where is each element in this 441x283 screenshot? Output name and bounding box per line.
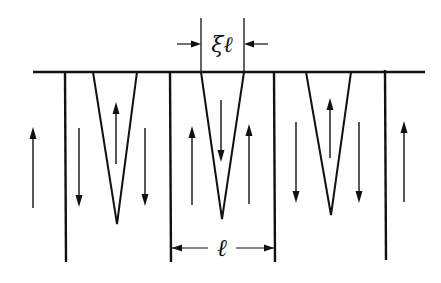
arrowhead-right-icon	[264, 245, 274, 252]
domain-diagram: ξℓ ℓ	[0, 0, 441, 283]
wedge-domain	[306, 72, 351, 215]
arrowhead-left-icon	[172, 245, 182, 252]
wedge-width-label: ξℓ	[211, 32, 233, 57]
arrowhead-up-icon	[401, 121, 408, 133]
wedge-domain	[93, 72, 137, 224]
arrowhead-up-icon	[327, 98, 334, 110]
wedge-domain	[201, 72, 244, 219]
arrowhead-up-icon	[113, 102, 120, 114]
arrowhead-down-icon	[356, 191, 363, 203]
domain-wall	[170, 72, 171, 262]
arrowhead-up-icon	[30, 127, 37, 139]
domain-wall	[65, 72, 66, 262]
arrowhead-right-icon	[191, 41, 201, 48]
arrowhead-down-icon	[142, 194, 149, 206]
arrowhead-left-icon	[244, 41, 254, 48]
arrowhead-down-icon	[76, 195, 83, 207]
arrowhead-down-icon	[218, 150, 225, 162]
diagram-canvas: ξℓ ℓ	[0, 0, 441, 283]
domain-wall	[274, 72, 275, 262]
domain-wall	[385, 70, 386, 260]
wedge-domains	[93, 72, 351, 224]
arrowhead-up-icon	[189, 126, 196, 138]
arrowhead-up-icon	[246, 124, 253, 136]
period-label: ℓ	[217, 234, 227, 262]
arrowhead-down-icon	[293, 191, 300, 203]
